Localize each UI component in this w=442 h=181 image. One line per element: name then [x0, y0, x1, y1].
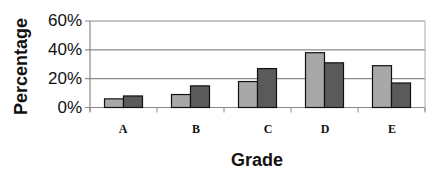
bar-d-series-1	[306, 53, 325, 108]
bar-d-series-2	[325, 63, 344, 108]
bar-c-series-2	[258, 69, 277, 108]
x-tick-c: C	[253, 122, 283, 137]
bar-c-series-1	[239, 82, 258, 108]
bar-b-series-1	[172, 95, 191, 108]
x-tick-a: A	[108, 122, 138, 137]
x-tick-d: D	[310, 122, 340, 137]
bar-chart: Percentage 60% 40% 20% 0% A B C D E Grad…	[0, 0, 442, 181]
bar-e-series-2	[392, 83, 411, 108]
x-axis-label: Grade	[0, 150, 442, 171]
y-tick-20: 20%	[30, 70, 82, 87]
y-tick-0: 0%	[30, 99, 82, 116]
y-axis-label: Percentage	[11, 12, 32, 122]
bar-b-series-2	[191, 86, 210, 108]
x-tick-e: E	[377, 122, 407, 137]
bar-e-series-1	[373, 66, 392, 108]
y-tick-60: 60%	[30, 12, 82, 29]
bar-a-series-2	[124, 96, 143, 108]
bar-a-series-1	[105, 99, 124, 108]
x-tick-b: B	[181, 122, 211, 137]
y-tick-40: 40%	[30, 41, 82, 58]
